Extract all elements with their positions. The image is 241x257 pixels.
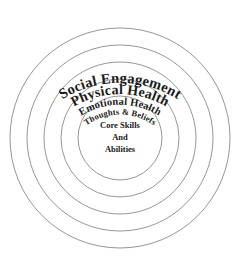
concentric-diagram: Social Engagement Physical Health Emotio…	[0, 0, 241, 257]
core-text-line-1: Core Skills	[100, 120, 140, 130]
rings-svg: Social Engagement Physical Health Emotio…	[0, 0, 241, 257]
core-text-line-3: Abilities	[105, 144, 136, 154]
core-text-line-2: And	[112, 132, 128, 142]
